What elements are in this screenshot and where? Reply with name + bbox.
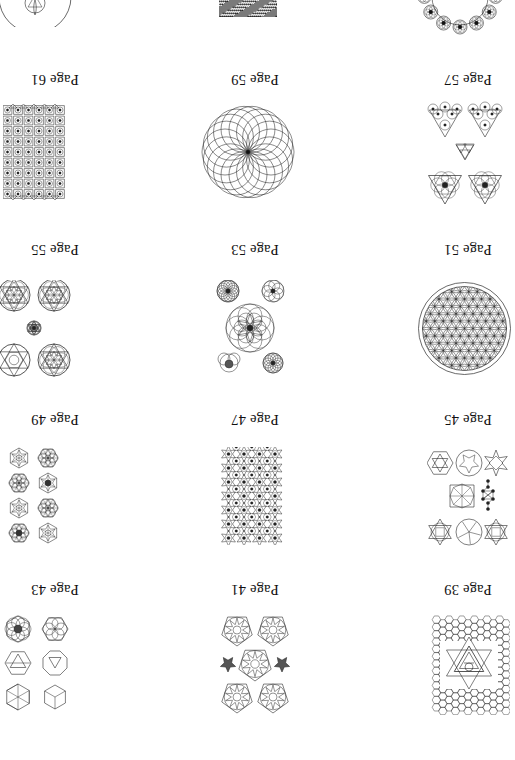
art-stroke (445, 689, 454, 696)
art-stroke (458, 25, 462, 29)
art-stroke (273, 508, 276, 511)
art-stroke (469, 176, 502, 205)
art-stroke (17, 161, 19, 163)
page-label: Page 45 (408, 411, 515, 428)
art-stroke (494, 0, 500, 2)
art-stroke (45, 480, 51, 486)
thumbnail-page-51[interactable] (417, 280, 512, 377)
art-stroke (226, 618, 249, 642)
thumbnail-page-57[interactable] (425, 100, 505, 205)
art-stroke (250, 502, 253, 505)
art-stroke (266, 530, 269, 533)
thumbnail-page-41[interactable] (220, 612, 290, 715)
triangle-grid-art-icon (425, 100, 505, 205)
art-stroke (27, 151, 29, 153)
art-stroke (235, 474, 238, 477)
thumbnail-page-49[interactable] (5, 447, 63, 545)
art-stroke (459, 455, 478, 473)
art-stroke (432, 645, 441, 652)
art-stroke (483, 616, 492, 623)
hexagon-grid-art-icon (427, 612, 510, 715)
art-stroke (259, 16, 261, 17)
art-stroke (445, 623, 454, 630)
art-stroke (48, 109, 50, 111)
art-stroke (17, 119, 19, 121)
page-label: Page 57 (408, 71, 515, 88)
art-stroke (464, 620, 473, 627)
page-label: Page 43 (0, 581, 115, 598)
art-stroke (438, 693, 447, 700)
art-stroke (482, 182, 488, 188)
art-stroke (486, 357, 503, 374)
art-stroke (462, 488, 470, 496)
art-stroke (6, 109, 8, 111)
art-stroke (417, 291, 431, 308)
art-stroke (469, 532, 470, 544)
art-stroke (451, 693, 460, 700)
thumbnail-page-61[interactable] (3, 104, 65, 200)
thumbnail-page-43[interactable] (2, 612, 70, 715)
art-stroke (456, 108, 459, 111)
art-stroke (38, 109, 40, 111)
art-stroke (247, 6, 249, 7)
art-stroke (489, 627, 498, 634)
art-stroke (445, 616, 454, 623)
pentagon-mandala-art-icon (220, 612, 290, 715)
art-stroke (27, 172, 29, 174)
art-stroke (451, 113, 454, 116)
art-stroke (226, 289, 230, 293)
art-stroke (464, 707, 473, 714)
art-stroke (251, 16, 253, 17)
art-stroke (470, 704, 479, 711)
thumbnail-page-47[interactable] (220, 447, 283, 545)
torus-rosette-art-icon (200, 104, 296, 200)
art-stroke (6, 161, 8, 163)
art-stroke (429, 526, 452, 546)
art-stroke (10, 654, 26, 668)
thumbnail-page-55[interactable] (0, 280, 71, 377)
thumbnail-page-53[interactable] (215, 280, 285, 375)
art-stroke (27, 140, 29, 142)
art-stroke (485, 526, 508, 546)
art-stroke (241, 10, 243, 11)
thumbnail-page-39[interactable] (427, 612, 510, 715)
art-stroke (457, 631, 466, 638)
art-stroke (495, 623, 504, 630)
art-stroke (235, 460, 238, 463)
art-stroke (502, 642, 510, 649)
art-stroke (227, 508, 230, 511)
art-stroke (502, 663, 510, 670)
art-stroke (266, 474, 269, 477)
art-stroke (489, 620, 498, 627)
art-stroke (224, 684, 250, 710)
art-stroke (48, 182, 50, 184)
art-stroke (502, 656, 510, 663)
art-stroke (476, 707, 485, 714)
thumbnail-page-59[interactable] (200, 104, 296, 200)
art-stroke (483, 487, 488, 491)
art-stroke (258, 522, 261, 525)
art-stroke (251, 660, 260, 669)
flower-of-life-art-icon (417, 280, 512, 377)
art-stroke (258, 536, 261, 539)
art-stroke (444, 124, 447, 127)
art-stroke (219, 16, 221, 17)
art-stroke (233, 626, 241, 634)
partial-thumbnail-arched-circle[interactable] (0, 0, 75, 27)
art-stroke (484, 106, 487, 109)
art-stroke (432, 638, 441, 645)
art-stroke (227, 16, 229, 17)
art-stroke (59, 130, 61, 132)
art-stroke (438, 707, 447, 714)
art-stroke (49, 658, 61, 669)
art-stroke (48, 140, 50, 142)
art-stroke (432, 674, 441, 681)
art-stroke (247, 16, 249, 17)
art-stroke (429, 176, 462, 205)
partial-thumbnail-rosette-ring[interactable] (410, 0, 510, 35)
art-stroke (495, 696, 504, 703)
thumbnail-page-45[interactable] (427, 447, 510, 547)
polyhedra-art-icon (2, 612, 70, 715)
partial-thumbnail-noise-block[interactable] (219, 0, 277, 17)
art-stroke (494, 342, 511, 359)
